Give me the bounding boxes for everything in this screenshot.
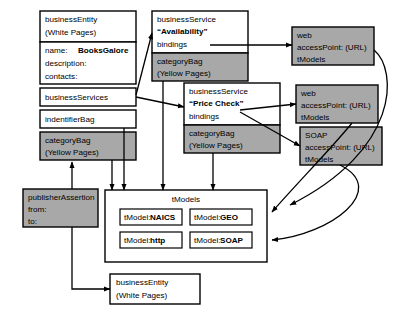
business-entity-bottom-node: businessEntity (White Pages) [110, 274, 200, 304]
business-services-row-label: businessServices [45, 93, 108, 102]
business-service-availability-categorybag-line1: categoryBag [157, 57, 202, 66]
business-service-price-check-node: businessService “Price Check” bindings c… [184, 83, 280, 153]
link-services-to-price-check [136, 97, 184, 107]
tmodel-soap-prefix: tModel: [194, 236, 221, 245]
business-entity-field-name-value: BooksGalore [78, 46, 129, 55]
tmodel-item-soap: tModel: SOAP [190, 232, 252, 248]
business-service-availability-bindings: bindings [157, 40, 187, 49]
publisher-assertion-title: publisherAssertion [28, 193, 95, 202]
tmodel-item-geo: tModel: GEO [190, 209, 252, 225]
category-bag-left-line2: (Yellow Pages) [45, 148, 99, 157]
tmodel-geo-name: GEO [220, 213, 238, 222]
tmodel-soap-name: SOAP [220, 236, 244, 245]
binding-web-middle-node: web accessPoint: (URL) tModels [296, 85, 378, 123]
category-bag-left-node: categoryBag (Yellow Pages) [40, 132, 136, 160]
business-service-price-check-bindings: bindings [189, 112, 219, 121]
business-service-availability-name: “Availability” [157, 27, 208, 36]
business-services-row: businessServices [40, 88, 136, 106]
identifier-bag-row-label: indentifierBag [45, 115, 95, 124]
binding-soap-node: SOAP accessPoint: (URL) tModels [300, 127, 382, 165]
binding-web-top-tmodels: tModels [297, 55, 325, 64]
business-service-availability-categorybag-line2: (Yellow Pages) [157, 69, 211, 78]
publisher-assertion-from: from: [28, 205, 46, 214]
tmodel-http-name: http [150, 236, 165, 245]
tmodel-http-prefix: tModel: [124, 236, 151, 245]
binding-soap-protocol: SOAP [305, 131, 328, 140]
link-soap-to-tmodels [272, 165, 359, 240]
tmodel-item-naics: tModel: NAICS [120, 209, 182, 225]
business-service-price-check-type: businessService [189, 87, 248, 96]
business-entity-top-subtitle: (White Pages) [45, 28, 97, 37]
business-service-price-check-categorybag-line2: (Yellow Pages) [189, 141, 243, 150]
tmodel-item-http: tModel: http [120, 232, 182, 248]
publisher-assertion-to: to: [28, 217, 37, 226]
business-entity-top-node: businessEntity (White Pages) name: Books… [40, 11, 136, 84]
business-entity-top-title: businessEntity [45, 15, 98, 24]
business-entity-bottom-subtitle: (White Pages) [116, 291, 168, 300]
tmodels-container-node: tModels tModel: NAICS tModel: GEO tModel… [105, 190, 267, 262]
business-entity-field-name-label: name: [45, 46, 68, 55]
business-entity-field-description-label: description: [45, 59, 86, 68]
link-services-to-availability [136, 33, 152, 95]
business-entity-field-contacts-label: contacts: [45, 72, 77, 81]
business-service-price-check-categorybag-line1: categoryBag [189, 129, 234, 138]
category-bag-left-line1: categoryBag [45, 136, 90, 145]
publisher-assertion-node: publisherAssertion from: to: [23, 189, 98, 227]
business-service-availability-node: businessService “Availability” bindings … [152, 11, 248, 81]
tmodel-naics-prefix: tModel: [124, 213, 151, 222]
uddi-diagram: businessEntity (White Pages) name: Books… [0, 0, 405, 318]
business-service-price-check-name: “Price Check” [189, 99, 243, 108]
binding-web-middle-accesspoint: accessPoint: (URL) [301, 101, 371, 110]
binding-web-top-protocol: web [296, 31, 312, 40]
binding-web-middle-protocol: web [300, 89, 316, 98]
business-service-availability-type: businessService [157, 15, 216, 24]
binding-soap-tmodels: tModels [305, 155, 333, 164]
tmodels-container-title: tModels [172, 195, 200, 204]
binding-web-top-accesspoint: accessPoint: (URL) [297, 43, 367, 52]
binding-web-middle-tmodels: tModels [301, 113, 329, 122]
identifier-bag-row: indentifierBag [40, 110, 136, 128]
business-entity-bottom-title: businessEntity [116, 278, 169, 287]
tmodel-naics-name: NAICS [150, 213, 176, 222]
tmodel-geo-prefix: tModel: [194, 213, 221, 222]
binding-web-top-node: web accessPoint: (URL) tModels [292, 27, 374, 65]
